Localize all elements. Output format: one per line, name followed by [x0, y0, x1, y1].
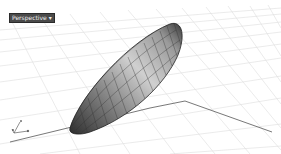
ellipsoid-surface[interactable]	[70, 23, 182, 134]
perspective-viewport[interactable]: Perspective ▾	[0, 0, 281, 154]
viewport-canvas[interactable]	[0, 0, 281, 154]
viewport-title: Perspective	[12, 14, 47, 21]
axis-gizmo-icon	[12, 120, 29, 133]
viewport-title-tab[interactable]: Perspective ▾	[9, 13, 55, 23]
viewport-menu-chevron-icon: ▾	[49, 14, 52, 21]
